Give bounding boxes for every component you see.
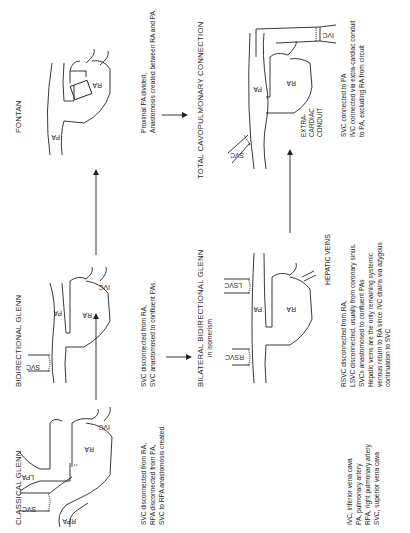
tcpc-pa-label: PA	[253, 86, 262, 93]
tcpc-description: SVC connected to PA IVC connected via ex…	[340, 20, 367, 137]
tcpc-conduit-label: EXTRA- CARDIAC CONDUIT	[300, 108, 324, 137]
abbreviation-legend: IVC, inferior vena cava PA, pulmonary ar…	[346, 444, 382, 525]
tcpc-svc-label: SVC	[230, 152, 244, 159]
tcpc-ivc-label: IVC	[323, 32, 334, 39]
diagram-canvas: CLASSICAL GLENN SVC RPA LPA RA IVC SVC d…	[0, 0, 410, 533]
tcpc-ra-label: RA	[286, 80, 296, 87]
